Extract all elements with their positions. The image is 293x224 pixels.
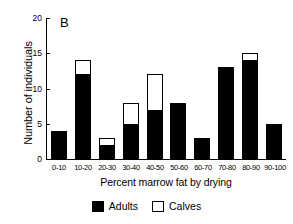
bar-stack bbox=[194, 138, 210, 159]
bar-group bbox=[119, 18, 143, 159]
x-tick-label: 30-40 bbox=[119, 163, 143, 172]
bar-group bbox=[190, 18, 214, 159]
x-tick-label: 80-90 bbox=[239, 163, 263, 172]
legend-swatch-icon bbox=[92, 201, 104, 212]
bar-stack bbox=[123, 103, 139, 159]
bar-segment-adults bbox=[170, 103, 186, 159]
x-tick-label: 70-80 bbox=[215, 163, 239, 172]
bar-segment-calves bbox=[75, 60, 91, 74]
bar-stack bbox=[51, 131, 67, 159]
x-tick-label: 0-10 bbox=[47, 163, 71, 172]
bar-stack bbox=[75, 60, 91, 159]
x-tick-label: 60-70 bbox=[191, 163, 215, 172]
bar-group bbox=[47, 18, 71, 159]
bar-segment-adults bbox=[51, 131, 67, 159]
y-tick-label: 0 bbox=[37, 155, 42, 164]
bar-segment-calves bbox=[147, 74, 163, 109]
bar-stack bbox=[147, 74, 163, 159]
legend-item-calves: Calves bbox=[152, 201, 201, 212]
y-tick-mark bbox=[47, 159, 50, 160]
y-tick-label: 10 bbox=[33, 84, 42, 93]
bar-segment-adults bbox=[147, 110, 163, 159]
legend-item-adults: Adults bbox=[92, 201, 138, 212]
bar-segment-calves bbox=[123, 103, 139, 124]
bar-segment-adults bbox=[266, 124, 282, 159]
bar-segment-adults bbox=[75, 74, 91, 159]
bar-group bbox=[95, 18, 119, 159]
bar-group bbox=[238, 18, 262, 159]
bar-segment-calves bbox=[242, 53, 258, 60]
x-tick-label: 10-20 bbox=[71, 163, 95, 172]
bar-segment-adults bbox=[123, 124, 139, 159]
bar-stack bbox=[170, 103, 186, 159]
bar-stack bbox=[266, 124, 282, 159]
x-axis-spine bbox=[46, 159, 286, 160]
x-axis-title: Percent marrow fat by drying bbox=[46, 176, 286, 188]
bar-segment-adults bbox=[99, 145, 115, 159]
x-tick-label: 20-30 bbox=[95, 163, 119, 172]
y-tick-label: 15 bbox=[33, 49, 42, 58]
bar-segment-adults bbox=[218, 67, 234, 159]
bar-group bbox=[71, 18, 95, 159]
x-tick-label: 50-60 bbox=[167, 163, 191, 172]
bar-stack bbox=[242, 53, 258, 159]
bar-group bbox=[167, 18, 191, 159]
plot-area: B 05101520 bbox=[46, 18, 286, 160]
bar-stack bbox=[218, 67, 234, 159]
legend-label: Adults bbox=[109, 201, 138, 212]
x-tick-label: 40-50 bbox=[143, 163, 167, 172]
bar-series-group bbox=[47, 18, 286, 159]
legend-swatch-icon bbox=[152, 201, 164, 212]
figure: Number of individuals B 05101520 0-1010-… bbox=[0, 0, 293, 224]
bar-group bbox=[262, 18, 286, 159]
bar-segment-adults bbox=[194, 138, 210, 159]
y-tick-label: 20 bbox=[33, 14, 42, 23]
bar-group bbox=[214, 18, 238, 159]
bar-group bbox=[143, 18, 167, 159]
legend: AdultsCalves bbox=[0, 201, 293, 212]
x-axis-tick-labels: 0-1010-2020-3030-4040-5050-6060-7070-808… bbox=[47, 163, 287, 172]
x-tick-label: 90-100 bbox=[263, 163, 287, 172]
bar-stack bbox=[99, 138, 115, 159]
legend-label: Calves bbox=[169, 201, 201, 212]
y-tick-label: 5 bbox=[37, 120, 42, 129]
bar-segment-calves bbox=[99, 138, 115, 145]
bar-segment-adults bbox=[242, 60, 258, 159]
